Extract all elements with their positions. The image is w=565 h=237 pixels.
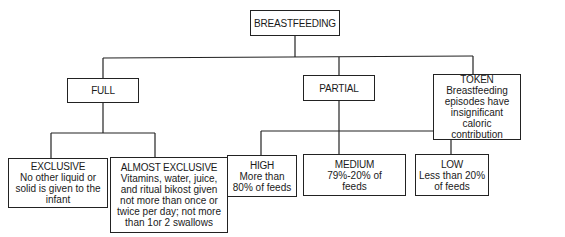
node-title: ALMOST EXCLUSIVE [121, 162, 218, 173]
node-title: EXCLUSIVE [31, 161, 85, 172]
connector-level1-bar [103, 56, 473, 58]
node-title: FULL [91, 85, 115, 96]
node-title: HIGH [250, 160, 274, 171]
node-exclusive: EXCLUSIVE No other liquid or solid is gi… [8, 158, 108, 208]
node-partial: PARTIAL [303, 75, 375, 101]
node-full: FULL [67, 78, 139, 103]
node-description: No other liquid or solid is given to the… [15, 172, 101, 205]
node-low: LOW Less than 20% of feeds [415, 154, 489, 196]
node-almost-exclusive: ALMOST EXCLUSIVE Vitamins, water, juice,… [110, 157, 228, 233]
node-breastfeeding: BREASTFEEDING [250, 10, 340, 36]
node-description: Less than 20% of feeds [418, 170, 486, 192]
node-high: HIGH More than 80% of feeds [227, 155, 297, 197]
node-token: TOKEN Breastfeeding episodes have insign… [433, 74, 521, 140]
node-description: Breastfeeding episodes have insignifican… [437, 85, 517, 140]
node-title: PARTIAL [319, 83, 358, 94]
node-title: MEDIUM [335, 159, 374, 170]
node-description: More than 80% of feeds [230, 171, 294, 193]
node-title: TOKEN [460, 74, 493, 85]
node-medium: MEDIUM 79%-20% of feeds [303, 154, 406, 196]
node-title: BREASTFEEDING [254, 18, 336, 29]
node-description: 79%-20% of feeds [326, 170, 383, 192]
node-description: Vitamins, water, juice, and ritual bikos… [114, 173, 224, 228]
node-title: LOW [441, 159, 463, 170]
